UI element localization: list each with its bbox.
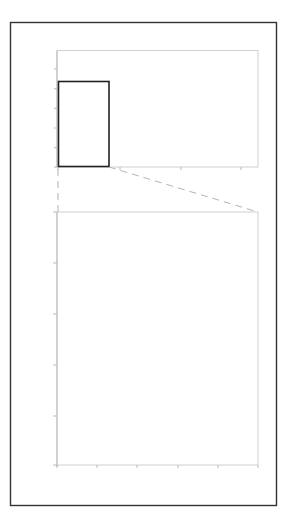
detail-plot-area [57,212,258,465]
detail-y-ticks [53,212,57,465]
overview-plot-area [57,51,258,168]
figure-frame [11,23,277,506]
zoom-region-box [59,82,110,167]
zoom-connector-right [109,167,258,212]
overview-chart [54,51,258,171]
detail-chart [53,212,258,468]
zoom-connector-lines [58,167,258,212]
figure [0,0,291,524]
